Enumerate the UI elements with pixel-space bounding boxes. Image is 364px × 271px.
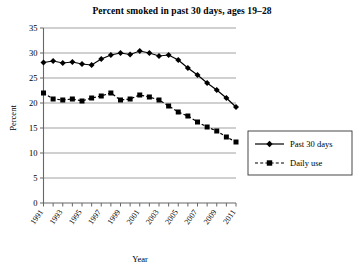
y-tick-label: 15: [29, 123, 38, 133]
data-point: [156, 53, 162, 59]
x-axis-ticks: 1991199319951997199920012003200520072009…: [29, 203, 238, 226]
data-point: [205, 125, 210, 130]
x-tick-label: 1993: [48, 208, 65, 226]
x-tick-label: 2011: [221, 208, 237, 226]
data-series-layer: [41, 48, 240, 145]
data-point: [118, 50, 124, 56]
data-point: [127, 52, 133, 58]
data-point: [51, 97, 56, 102]
chart-page: Percent smoked in past 30 days, ages 19–…: [0, 0, 364, 271]
x-tick-label: 2001: [125, 208, 142, 226]
y-axis-label: Percent: [8, 105, 18, 131]
data-point: [224, 135, 229, 140]
legend-border: [248, 131, 352, 175]
x-tick-label: 1999: [106, 208, 123, 226]
data-point: [41, 60, 47, 66]
y-tick-label: 35: [29, 23, 38, 33]
data-point: [128, 97, 133, 102]
y-axis-ticks: 05101520253035: [29, 23, 44, 208]
x-tick-label: 1997: [86, 208, 103, 226]
data-point: [166, 104, 171, 109]
x-tick-label: 1991: [29, 208, 46, 226]
data-point: [69, 59, 75, 65]
chart-canvas: 05101520253035 1991199319951997199920012…: [0, 0, 364, 271]
x-tick-label: 2003: [144, 208, 161, 226]
data-point: [195, 120, 200, 125]
legend: Past 30 daysDaily use: [248, 131, 352, 175]
series-2: [41, 91, 239, 145]
y-tick-label: 5: [33, 173, 37, 183]
data-point: [60, 98, 65, 103]
data-point: [99, 94, 104, 99]
y-tick-label: 10: [29, 148, 38, 158]
data-point: [176, 110, 181, 115]
data-point: [118, 98, 123, 103]
data-point: [147, 95, 152, 100]
legend-marker-2: [267, 160, 272, 165]
data-point: [41, 91, 46, 96]
data-point: [80, 99, 85, 104]
data-point: [79, 61, 85, 67]
data-point: [214, 129, 219, 134]
data-point: [157, 98, 162, 103]
data-point: [234, 140, 239, 145]
x-tick-label: 2007: [183, 208, 200, 226]
legend-label-2: Daily use: [290, 158, 323, 168]
x-tick-label: 2009: [202, 208, 219, 226]
y-tick-label: 0: [33, 198, 37, 208]
data-point: [137, 93, 142, 98]
data-point: [70, 97, 75, 102]
x-tick-label: 2005: [163, 208, 180, 226]
x-tick-label: 1995: [67, 208, 84, 226]
data-point: [146, 50, 152, 56]
data-point: [89, 62, 95, 68]
y-tick-label: 30: [29, 48, 38, 58]
data-point: [108, 91, 113, 96]
y-tick-label: 20: [29, 98, 38, 108]
y-tick-label: 25: [29, 73, 38, 83]
data-point: [98, 56, 104, 62]
x-axis-label: Year: [132, 254, 148, 264]
data-point: [185, 114, 190, 119]
line-chart: 05101520253035 1991199319951997199920012…: [0, 0, 364, 271]
data-point: [60, 60, 66, 66]
legend-label-1: Past 30 days: [290, 139, 333, 149]
data-point: [89, 96, 94, 101]
data-point: [50, 58, 56, 64]
